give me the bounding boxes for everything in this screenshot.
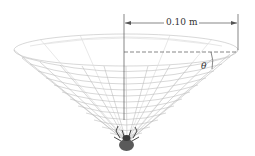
arrow-right-icon: [231, 21, 237, 25]
web-cone: [14, 34, 238, 140]
angle-label: θ: [201, 61, 206, 71]
conical-web-diagram: [0, 0, 255, 156]
dimension-annotation: [124, 14, 238, 120]
arrow-left-icon: [125, 21, 131, 25]
dimension-label: 0.10 m: [164, 17, 199, 27]
